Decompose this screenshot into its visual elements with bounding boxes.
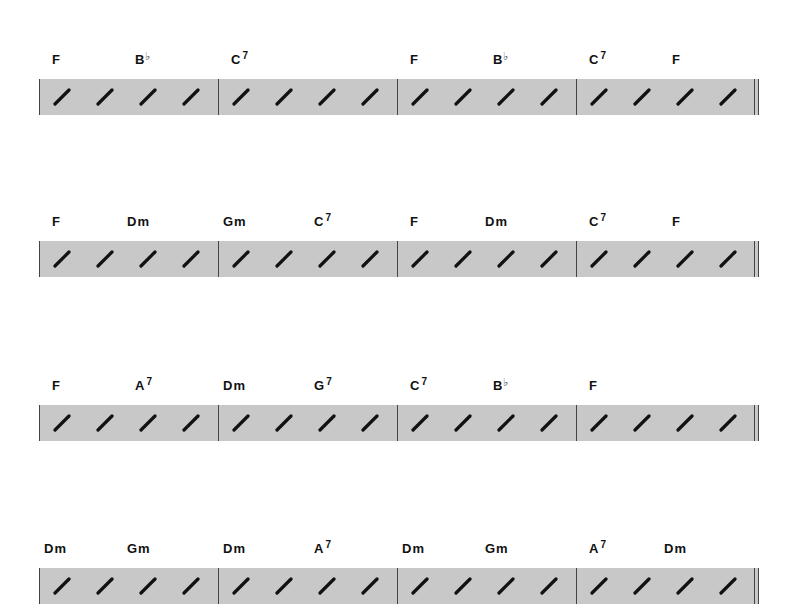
beat-slash-icon	[590, 414, 608, 432]
beat-slash-icon	[497, 577, 515, 595]
beat-slash-icon	[232, 577, 250, 595]
chord-root: Dm	[664, 542, 687, 555]
chord-root: Dm	[223, 379, 246, 392]
chord-label: G7	[314, 379, 332, 392]
chord-quality: 7	[600, 212, 606, 223]
beat-slash-icon	[318, 88, 336, 106]
beat-slash-icon	[318, 577, 336, 595]
beat-slash-icon	[53, 577, 71, 595]
beat-slash-icon	[411, 577, 429, 595]
final-double-barline	[754, 241, 759, 277]
beat-slash-icon	[497, 250, 515, 268]
chord-root: A	[135, 379, 145, 392]
beat-slash-icon	[676, 577, 694, 595]
measure	[576, 568, 755, 604]
beat-slash-icon	[182, 414, 200, 432]
beat-slash-icon	[139, 88, 157, 106]
flat-icon: ♭	[145, 50, 151, 62]
beat-slash-icon	[232, 250, 250, 268]
chord-label: F	[52, 215, 61, 228]
beat-slash-icon	[53, 88, 71, 106]
measure	[397, 241, 576, 277]
beat-slash-icon	[633, 88, 651, 106]
beat-slash-icon	[633, 414, 651, 432]
chord-root: F	[410, 215, 419, 228]
beat-slash-icon	[361, 414, 379, 432]
measure	[576, 241, 755, 277]
staff	[39, 241, 759, 277]
measure	[397, 405, 576, 441]
chord-root: C	[589, 215, 599, 228]
chord-label: F	[672, 215, 681, 228]
beat-slash-icon	[540, 577, 558, 595]
chord-root: F	[672, 215, 681, 228]
chord-label: Dm	[223, 379, 246, 392]
chord-label: Dm	[223, 542, 246, 555]
chord-root: Gm	[485, 542, 509, 555]
beat-slash-icon	[497, 414, 515, 432]
chord-quality: 7	[325, 539, 331, 550]
beat-slash-icon	[411, 88, 429, 106]
beat-slash-icon	[139, 250, 157, 268]
beat-slash-icon	[318, 414, 336, 432]
beat-slash-icon	[454, 88, 472, 106]
chord-label: C7	[410, 379, 427, 392]
beat-slash-icon	[676, 414, 694, 432]
measure	[218, 568, 397, 604]
system-row-3: FA7DmG7C7B♭F	[0, 375, 791, 455]
measure	[39, 405, 218, 441]
beat-slash-icon	[361, 88, 379, 106]
chord-label: F	[52, 53, 61, 66]
chord-root: C	[314, 215, 324, 228]
beat-slash-icon	[590, 250, 608, 268]
chord-label: F	[410, 215, 419, 228]
measure	[397, 568, 576, 604]
system-row-4: DmGmDmA7DmGmA7Dm	[0, 538, 791, 614]
beat-slash-icon	[232, 88, 250, 106]
staff	[39, 405, 759, 441]
chord-label: B♭	[135, 53, 151, 66]
beat-slash-icon	[540, 250, 558, 268]
beat-slash-icon	[96, 88, 114, 106]
beat-slash-icon	[53, 414, 71, 432]
beat-slash-icon	[719, 577, 737, 595]
chord-root: B	[493, 379, 503, 392]
chord-label: A7	[589, 542, 606, 555]
chord-root: F	[52, 215, 61, 228]
beat-slash-icon	[719, 88, 737, 106]
chord-root: Gm	[127, 542, 151, 555]
beat-slash-icon	[318, 250, 336, 268]
chord-label: Dm	[485, 215, 508, 228]
chord-root: A	[314, 542, 324, 555]
staff	[39, 568, 759, 604]
beat-slash-icon	[96, 250, 114, 268]
chord-quality: 7	[325, 212, 331, 223]
chord-label: B♭	[493, 53, 509, 66]
chord-label: Gm	[485, 542, 509, 555]
beat-slash-icon	[719, 250, 737, 268]
chord-label: B♭	[493, 379, 509, 392]
chord-label: C7	[314, 215, 331, 228]
chord-root: Dm	[127, 215, 150, 228]
beat-slash-icon	[633, 577, 651, 595]
chord-root: Gm	[223, 215, 247, 228]
chord-root: A	[589, 542, 599, 555]
chord-quality: 7	[146, 376, 152, 387]
chord-label: A7	[135, 379, 152, 392]
chord-quality: 7	[421, 376, 427, 387]
chord-label: A7	[314, 542, 331, 555]
measure	[218, 79, 397, 115]
measure	[576, 79, 755, 115]
chord-root: Dm	[223, 542, 246, 555]
beat-slash-icon	[719, 414, 737, 432]
measure	[39, 79, 218, 115]
measure	[39, 241, 218, 277]
chord-label: C7	[589, 215, 606, 228]
beat-slash-icon	[411, 414, 429, 432]
chord-quality: 7	[242, 50, 248, 61]
chord-label: Dm	[664, 542, 687, 555]
flat-icon: ♭	[503, 376, 509, 388]
beat-slash-icon	[540, 88, 558, 106]
chord-label: Gm	[223, 215, 247, 228]
final-double-barline	[754, 568, 759, 604]
